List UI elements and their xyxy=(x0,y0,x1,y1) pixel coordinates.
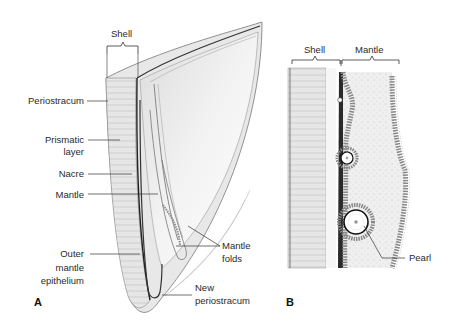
label-new-periostracum: periostracum xyxy=(195,295,250,307)
label-pearl: Pearl xyxy=(409,252,431,264)
label-mantle-folds-2: folds xyxy=(222,253,242,265)
label-mantle-folds: Mantle xyxy=(222,240,251,252)
label-outer-mantle: mantle xyxy=(10,262,84,274)
panel-letter-b: B xyxy=(286,296,294,308)
label-mantle-b: Mantle xyxy=(355,44,384,56)
label-outer-epithelium: epithelium xyxy=(10,275,84,287)
label-periostracum: Periostracum xyxy=(10,95,84,107)
label-mantle-a: Mantle xyxy=(10,189,84,201)
panel-letter-a: A xyxy=(34,296,42,308)
label-prismatic: Prismatic xyxy=(10,134,84,146)
label-nacre: Nacre xyxy=(10,168,84,180)
label-prismatic-layer: layer xyxy=(10,146,84,158)
label-new: New xyxy=(195,282,214,294)
label-shell-b: Shell xyxy=(304,44,325,56)
panel-a-drawing xyxy=(87,22,262,312)
panel-b-drawing xyxy=(288,56,410,268)
label-shell-a: Shell xyxy=(111,28,132,40)
label-outer: Outer xyxy=(10,248,84,260)
